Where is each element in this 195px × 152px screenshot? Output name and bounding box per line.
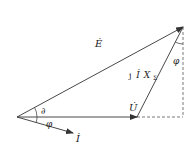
label-jIX-sub: Σ xyxy=(153,74,157,81)
phasor-diagram: Ė U̇ İ ∂ φ φ j İ X Σ xyxy=(0,0,195,152)
angle-arc-phi-bottom xyxy=(36,117,37,123)
label-I: İ xyxy=(75,133,81,144)
angle-arc-delta xyxy=(35,108,37,118)
label-jIX: j İ X Σ xyxy=(128,69,157,81)
label-E: Ė xyxy=(94,38,103,49)
label-phi-top: φ xyxy=(173,56,180,66)
label-U: U̇ xyxy=(129,102,138,113)
label-jIX-X: X xyxy=(143,70,151,80)
label-jIX-j: j xyxy=(128,71,131,80)
label-jIX-I: İ xyxy=(135,69,140,80)
phasor-I xyxy=(17,117,73,133)
label-delta: ∂ xyxy=(41,106,46,116)
label-phi-bottom: φ xyxy=(46,119,53,129)
angle-arc-phi-top xyxy=(175,42,183,44)
